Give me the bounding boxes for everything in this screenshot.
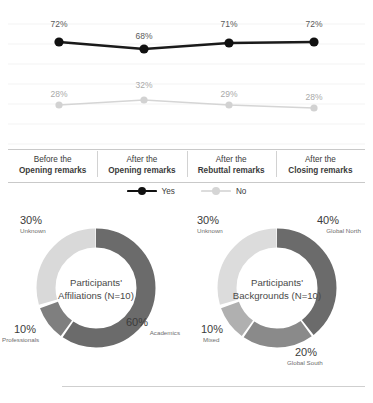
line-chart-svg: 72% 68% 71% 72% 28% 32% 29% 28% [0, 0, 373, 150]
donut-label-global-north-pct: 40% [317, 214, 339, 226]
axis-label-line1: Before the [8, 154, 97, 165]
series-yes-point [139, 44, 148, 53]
data-label-yes-2: 68% [135, 31, 152, 41]
legend-marker-yes-icon [127, 186, 157, 196]
chart-legend: Yes No [0, 183, 373, 199]
axis-cell-after-opening: After the Opening remarks [97, 150, 186, 182]
axis-cell-after-rebuttal: After the Rebuttal remarks [187, 150, 276, 182]
data-label-yes-1: 72% [50, 19, 67, 29]
donut-label-unknown-pct: 30% [20, 214, 42, 226]
axis-label-line1: After the [276, 154, 365, 165]
legend-marker-no-icon [201, 186, 231, 196]
legend-label-no: No [236, 187, 246, 196]
donut-label-academics-pct: 60% [126, 316, 148, 328]
axis-cell-before-opening: Before the Opening remarks [8, 150, 97, 182]
legend-label-yes: Yes [162, 187, 175, 196]
axis-label-line2: Closing remarks [276, 165, 365, 176]
data-label-yes-3: 71% [220, 19, 237, 29]
series-yes-point [309, 37, 318, 46]
category-axis: Before the Opening remarks After the Ope… [8, 150, 365, 182]
series-yes-point [224, 38, 233, 47]
axis-label-line2: Opening remarks [97, 165, 186, 176]
donut-label-academics-name: Academics [150, 329, 180, 336]
donut-chart-affiliations: Participants' Affiliations (N=10) 30% Un… [0, 200, 186, 385]
donut-label-global-south-pct: 20% [295, 346, 317, 358]
data-label-yes-4: 72% [305, 19, 322, 29]
donut-label-professionals-pct: 10% [14, 323, 36, 335]
footer-divider [62, 386, 365, 387]
data-label-no-2: 32% [135, 80, 152, 90]
donut-chart-backgrounds: Participants' Backgrounds (N=10) 30% Unk… [187, 200, 373, 385]
donut-label-unknown-name: Unknown [197, 227, 223, 234]
donut-label-mixed-name: Mixed [203, 336, 220, 343]
data-label-no-1: 28% [50, 89, 67, 99]
series-yes [54, 37, 318, 53]
donut-affiliations-svg: Participants' Affiliations (N=10) 30% Un… [0, 200, 186, 385]
axis-cell-after-closing: After the Closing remarks [276, 150, 365, 182]
donut-label-global-north-name: Global North [326, 227, 361, 234]
donut-label-unknown-pct: 30% [197, 214, 219, 226]
donut-center-line2: Backgrounds (N=10) [233, 290, 321, 301]
axis-label-line2: Rebuttal remarks [187, 165, 276, 176]
line-chart-panel: 72% 68% 71% 72% 28% 32% 29% 28% [0, 0, 373, 150]
donut-label-global-south-name: Global South [287, 359, 323, 366]
data-label-no-3: 29% [220, 89, 237, 99]
series-no-point [225, 101, 232, 108]
donut-label-mixed-pct: 10% [201, 323, 223, 335]
donut-center-line2: Affiliations (N=10) [58, 290, 134, 301]
donut-center-line1: Participants' [251, 277, 303, 288]
donut-center-line1: Participants' [70, 277, 122, 288]
donut-backgrounds-svg: Participants' Backgrounds (N=10) 30% Unk… [187, 200, 373, 385]
legend-item-yes[interactable]: Yes [127, 186, 175, 196]
series-no-point [310, 104, 317, 111]
series-no-point [55, 101, 62, 108]
donut-ring-backgrounds [227, 238, 327, 338]
series-yes-point [54, 37, 63, 46]
axis-label-line1: After the [97, 154, 186, 165]
legend-item-no[interactable]: No [201, 186, 246, 196]
axis-label-line2: Opening remarks [8, 165, 97, 176]
donut-label-professionals-name: Professionals [2, 336, 39, 343]
data-label-no-4: 28% [305, 92, 322, 102]
series-yes-line [59, 42, 314, 49]
donut-label-unknown-name: Unknown [20, 227, 46, 234]
series-no-point [140, 96, 147, 103]
axis-label-line1: After the [187, 154, 276, 165]
